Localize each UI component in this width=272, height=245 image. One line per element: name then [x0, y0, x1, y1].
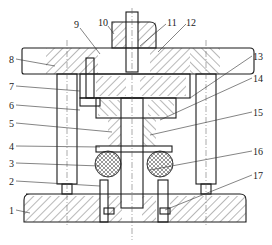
shank [112, 12, 156, 72]
guide-posts [57, 74, 216, 194]
rubber-elements [95, 151, 173, 177]
callouts: 1 2 3 4 5 6 7 8 9 10 11 12 13 14 15 16 1… [9, 17, 263, 216]
callout-13: 13 [253, 51, 263, 62]
callout-7: 7 [9, 81, 14, 92]
callout-11: 11 [167, 17, 177, 28]
lower-base [24, 180, 246, 222]
callout-5: 5 [9, 118, 14, 129]
callout-3: 3 [9, 158, 14, 169]
callout-6: 6 [9, 100, 14, 111]
die-assembly-drawing: 1 2 3 4 5 6 7 8 9 10 11 12 13 14 15 16 1… [0, 0, 272, 245]
callout-10: 10 [98, 17, 108, 28]
callout-9: 9 [74, 19, 79, 30]
callout-16: 16 [253, 146, 263, 157]
callout-12: 12 [186, 17, 196, 28]
callout-2: 2 [9, 176, 14, 187]
callout-4: 4 [9, 141, 14, 152]
callout-17: 17 [253, 170, 263, 181]
callout-1: 1 [9, 205, 14, 216]
callout-14: 14 [253, 73, 263, 84]
middle-plates [80, 74, 190, 118]
callout-8: 8 [9, 54, 14, 65]
callout-15: 15 [253, 107, 263, 118]
